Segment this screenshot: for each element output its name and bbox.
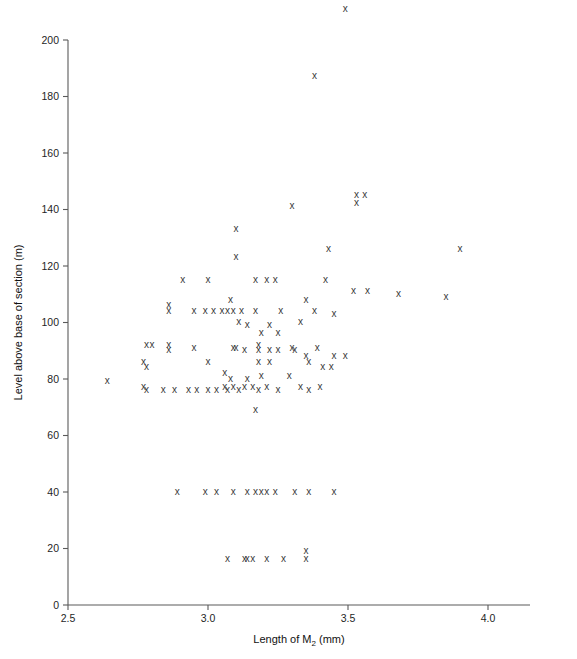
- data-point-marker: x: [231, 381, 236, 392]
- y-tick-label: 40: [47, 486, 59, 498]
- data-point-marker: x: [323, 274, 328, 285]
- data-point-marker: x: [214, 384, 219, 395]
- data-point-marker: x: [225, 553, 230, 564]
- y-tick-label: 200: [41, 34, 59, 46]
- data-point-marker: x: [206, 274, 211, 285]
- data-point-marker: x: [292, 344, 297, 355]
- x-tick-label: 3.0: [201, 612, 216, 624]
- data-point-marker: x: [253, 404, 258, 415]
- data-point-marker: x: [256, 356, 261, 367]
- data-point-marker: x: [231, 305, 236, 316]
- data-point-marker: x: [298, 381, 303, 392]
- data-point-marker: x: [150, 339, 155, 350]
- y-axis-title: Level above base of section (m): [12, 245, 24, 401]
- data-point-marker: x: [234, 251, 239, 262]
- y-tick-label: 100: [41, 316, 59, 328]
- y-tick-label: 120: [41, 260, 59, 272]
- data-point-marker: x: [315, 342, 320, 353]
- data-point-marker: x: [329, 361, 334, 372]
- plot-canvas: 0204060801001201401601802002.53.03.54.0L…: [0, 0, 577, 659]
- data-point-marker: x: [245, 553, 250, 564]
- data-point-marker: x: [290, 200, 295, 211]
- data-point-marker: x: [444, 291, 449, 302]
- data-point-marker: x: [239, 305, 244, 316]
- x-axis-title: Length of M2 (mm): [253, 633, 344, 648]
- data-point-marker: x: [105, 375, 110, 386]
- data-point-marker: x: [396, 288, 401, 299]
- data-point-marker: x: [276, 327, 281, 338]
- data-point-group: xxxxxxxxxxxxxxxxxxxxxxxxxxxxxxxxxxxxxxxx…: [105, 3, 463, 565]
- data-point-marker: x: [234, 342, 239, 353]
- data-point-marker: x: [225, 305, 230, 316]
- data-point-marker: x: [166, 305, 171, 316]
- data-point-marker: x: [242, 381, 247, 392]
- data-point-marker: x: [264, 274, 269, 285]
- data-point-marker: x: [206, 356, 211, 367]
- data-point-marker: x: [287, 370, 292, 381]
- data-point-marker: x: [186, 384, 191, 395]
- data-point-marker: x: [276, 384, 281, 395]
- data-point-marker: x: [236, 316, 241, 327]
- data-point-marker: x: [180, 274, 185, 285]
- scatter-plot-figure: 0204060801001201401601802002.53.03.54.0L…: [0, 0, 577, 659]
- data-point-marker: x: [292, 486, 297, 497]
- data-point-marker: x: [253, 486, 258, 497]
- data-point-marker: x: [354, 189, 359, 200]
- data-point-marker: x: [144, 361, 149, 372]
- data-point-marker: x: [332, 486, 337, 497]
- data-point-marker: x: [161, 384, 166, 395]
- data-point-marker: x: [362, 189, 367, 200]
- data-point-marker: x: [222, 367, 227, 378]
- data-point-marker: x: [250, 381, 255, 392]
- data-point-marker: x: [343, 350, 348, 361]
- data-point-marker: x: [306, 486, 311, 497]
- y-tick-label: 0: [53, 599, 59, 611]
- data-point-marker: x: [192, 342, 197, 353]
- data-point-marker: x: [242, 344, 247, 355]
- data-point-marker: x: [256, 384, 261, 395]
- data-point-marker: x: [458, 243, 463, 254]
- data-point-marker: x: [175, 486, 180, 497]
- y-tick-label: 180: [41, 90, 59, 102]
- data-point-marker: x: [318, 381, 323, 392]
- y-tick-label: 20: [47, 542, 59, 554]
- data-point-marker: x: [245, 319, 250, 330]
- x-tick-label: 3.5: [341, 612, 356, 624]
- y-tick-label: 80: [47, 373, 59, 385]
- data-point-marker: x: [225, 384, 230, 395]
- data-point-marker: x: [234, 223, 239, 234]
- x-tick-label: 2.5: [61, 612, 76, 624]
- data-point-marker: x: [228, 294, 233, 305]
- data-point-marker: x: [365, 285, 370, 296]
- data-point-marker: x: [332, 350, 337, 361]
- data-point-marker: x: [192, 305, 197, 316]
- data-point-marker: x: [253, 305, 258, 316]
- data-point-marker: x: [203, 486, 208, 497]
- data-point-marker: x: [220, 305, 225, 316]
- data-point-marker: x: [253, 274, 258, 285]
- y-tick-label: 60: [47, 429, 59, 441]
- data-point-marker: x: [304, 294, 309, 305]
- data-point-marker: x: [304, 553, 309, 564]
- data-point-marker: x: [326, 243, 331, 254]
- data-point-marker: x: [211, 305, 216, 316]
- data-point-marker: x: [203, 305, 208, 316]
- data-point-marker: x: [320, 361, 325, 372]
- data-point-marker: x: [214, 486, 219, 497]
- data-point-marker: x: [264, 381, 269, 392]
- data-point-marker: x: [267, 344, 272, 355]
- data-point-marker: x: [264, 553, 269, 564]
- data-point-marker: x: [312, 305, 317, 316]
- data-point-marker: x: [144, 339, 149, 350]
- data-point-marker: x: [306, 356, 311, 367]
- data-point-marker: x: [281, 553, 286, 564]
- data-point-marker: x: [306, 384, 311, 395]
- data-point-marker: x: [236, 384, 241, 395]
- data-point-marker: x: [273, 486, 278, 497]
- data-point-marker: x: [231, 486, 236, 497]
- data-point-marker: x: [312, 70, 317, 81]
- y-tick-label: 140: [41, 203, 59, 215]
- data-point-marker: x: [351, 285, 356, 296]
- data-point-marker: x: [259, 327, 264, 338]
- data-point-marker: x: [144, 384, 149, 395]
